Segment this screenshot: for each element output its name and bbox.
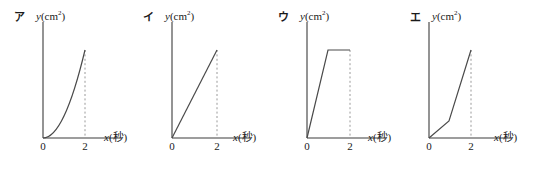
curve-linear-then-flat-u (307, 50, 350, 138)
plot-area-e (396, 0, 532, 170)
x-tick-0-a: 0 (37, 140, 49, 153)
x-tick-0-e: 0 (423, 140, 435, 153)
x-axis-label-a: x(秒) (104, 130, 127, 144)
graph-choices-figure: ア y(cm2) 0 2 x(秒) イ y(cm2) 0 2 x(秒) (0, 0, 542, 170)
x-axis-label-i: x(秒) (233, 130, 256, 144)
x-axis-label-e: x(秒) (494, 130, 517, 144)
curve-quadratic-a (43, 50, 85, 138)
plot-area-i (129, 0, 265, 170)
x-axis-unit-e: (秒) (499, 131, 517, 143)
x-tick-2-u: 2 (344, 140, 356, 153)
plot-area-u (264, 0, 400, 170)
x-tick-0-u: 0 (301, 140, 313, 153)
x-tick-2-a: 2 (79, 140, 91, 153)
panel-choice-i: イ y(cm2) 0 2 x(秒) (129, 0, 265, 170)
x-axis-unit-i: (秒) (238, 131, 256, 143)
x-axis-unit-a: (秒) (109, 131, 127, 143)
x-axis-unit-u: (秒) (373, 131, 391, 143)
panel-choice-e: エ y(cm2) 0 2 x(秒) (396, 0, 532, 170)
panel-choice-u: ウ y(cm2) 0 2 x(秒) (264, 0, 400, 170)
x-axis-label-u: x(秒) (368, 130, 391, 144)
plot-area-a (0, 0, 136, 170)
curve-linear-i (172, 50, 217, 138)
x-tick-0-i: 0 (166, 140, 178, 153)
curve-shallow-then-steep-e (429, 50, 471, 138)
x-tick-2-e: 2 (465, 140, 477, 153)
x-tick-2-i: 2 (211, 140, 223, 153)
panel-choice-a: ア y(cm2) 0 2 x(秒) (0, 0, 136, 170)
